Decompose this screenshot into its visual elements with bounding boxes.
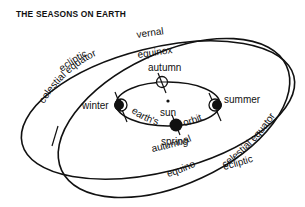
earths-orbit — [116, 82, 220, 126]
label-autumn: autumn — [148, 62, 181, 73]
tick-mark — [52, 126, 58, 146]
label-sun: sun — [160, 107, 176, 118]
label-winter: winter — [81, 100, 109, 111]
label-vernal: vernal — [136, 25, 165, 40]
earth-winter-icon — [114, 92, 127, 122]
seasons-diagram: ecliptic celestial equator vernal equino… — [0, 0, 305, 207]
label-vernal-equinox: equinox — [137, 44, 173, 60]
label-autumnal-equinox: equinox — [0, 0, 197, 179]
earth-autumn-icon — [156, 73, 168, 93]
earth-spring-icon — [170, 115, 183, 135]
label-orbit: orbit — [182, 112, 204, 128]
label-summer: summer — [224, 94, 261, 105]
sun-dot — [166, 99, 169, 102]
